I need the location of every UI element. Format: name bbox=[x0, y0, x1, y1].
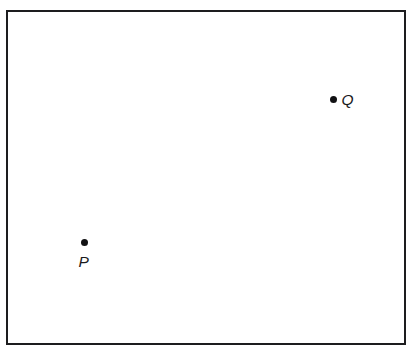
point-q-label: Q bbox=[342, 92, 354, 108]
point-q-marker-dot bbox=[330, 96, 338, 104]
point-p-marker-dot bbox=[81, 239, 89, 247]
point-p-label: P bbox=[79, 254, 90, 270]
rectangular-border: P Q bbox=[6, 10, 406, 345]
figure-canvas: P Q bbox=[0, 0, 414, 360]
